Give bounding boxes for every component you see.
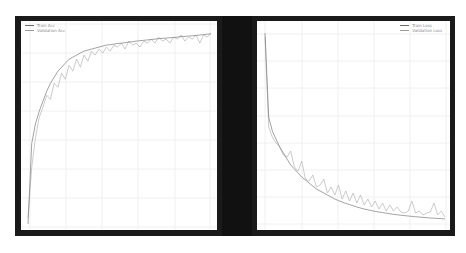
validation-acc-line xyxy=(28,33,211,218)
loss-legend: Train Loss Validation Loss xyxy=(400,23,442,33)
accuracy-chart-plot: Train Acc Validation Acc xyxy=(21,21,217,230)
legend-swatch-validation-acc xyxy=(25,30,34,31)
legend-swatch-validation-loss xyxy=(400,30,409,31)
legend-item-validation-loss: Validation Loss xyxy=(400,28,442,33)
legend-swatch-train-acc xyxy=(25,25,34,26)
loss-chart-plot: Train Loss Validation Loss xyxy=(257,21,450,230)
accuracy-legend: Train Acc Validation Acc xyxy=(25,23,65,33)
validation-loss-line xyxy=(265,37,445,217)
accuracy-chart-svg xyxy=(21,21,217,230)
legend-label-validation-acc: Validation Acc xyxy=(37,28,65,33)
legend-item-validation-acc: Validation Acc xyxy=(25,28,65,33)
legend-swatch-train-loss xyxy=(400,25,409,26)
loss-chart-svg xyxy=(257,21,450,230)
legend-label-validation-loss: Validation Loss xyxy=(412,28,442,33)
train-acc-line xyxy=(28,34,211,224)
